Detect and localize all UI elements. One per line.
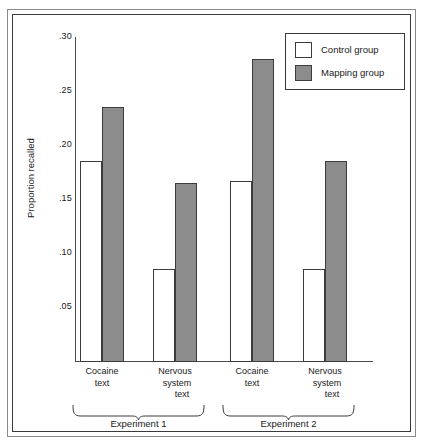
category-label-line: Nervous	[293, 366, 357, 378]
bar-mapping	[102, 107, 124, 362]
bar-control	[153, 269, 175, 362]
category-label-line: text	[143, 389, 207, 401]
category-label-line: Cocaine	[220, 366, 284, 378]
bar-mapping	[175, 183, 197, 362]
category-label-line: text	[220, 378, 284, 390]
category-label-line: system	[293, 378, 357, 390]
figure-inner-frame: Proportion recalled .30.25.20.15.10.05 C…	[12, 14, 411, 432]
legend-swatch-mapping-icon	[295, 65, 312, 81]
category-label: Cocainetext	[70, 366, 134, 389]
category-label-line: Nervous	[143, 366, 207, 378]
category-label-line: text	[70, 378, 134, 390]
legend-label-control: Control group	[321, 44, 379, 56]
legend-label-mapping: Mapping group	[321, 67, 384, 79]
legend-swatch-control-icon	[295, 42, 312, 58]
chart-plot-area: Proportion recalled .30.25.20.15.10.05 C…	[13, 15, 414, 435]
category-label: Nervoussystemtext	[143, 366, 207, 401]
category-label-line: system	[143, 378, 207, 390]
category-label-line: text	[293, 389, 357, 401]
bar-mapping	[252, 59, 274, 362]
category-label: Cocainetext	[220, 366, 284, 389]
figure-outer-frame: Proportion recalled .30.25.20.15.10.05 C…	[7, 9, 416, 437]
bar-control	[303, 269, 325, 362]
experiment-group-label: Experiment 2	[209, 418, 369, 429]
chart-legend: Control group Mapping group	[285, 33, 405, 90]
bar-control	[80, 161, 102, 362]
category-label-line: Cocaine	[70, 366, 134, 378]
bar-mapping	[325, 161, 347, 362]
experiment-group-label: Experiment 1	[59, 418, 219, 429]
bar-control	[230, 181, 252, 362]
category-label: Nervoussystemtext	[293, 366, 357, 401]
